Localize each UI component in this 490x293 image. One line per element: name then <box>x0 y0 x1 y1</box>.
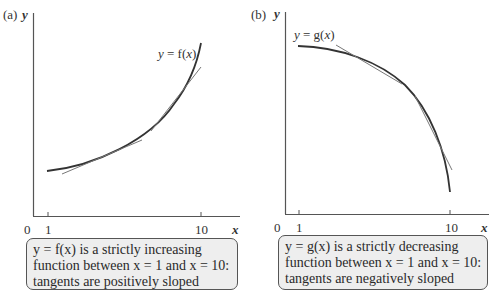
panel-b-caption-line-1: y = g(x) is a strictly decreasing <box>285 239 481 255</box>
panel-b-tangent-2 <box>415 96 452 170</box>
panel-b-caption: y = g(x) is a strictly decreasing functi… <box>278 235 488 290</box>
panel-b-curve-label: y = g(x) <box>292 27 335 42</box>
panel-a-label: (a) <box>3 7 17 22</box>
panel-a-tick-label-10: 10 <box>195 222 208 237</box>
panel-a-tangent-2 <box>151 67 201 131</box>
panel-b-x-axis-label: x <box>480 220 488 235</box>
panel-a-caption-line-2: function between x = 1 and x = 10: <box>33 258 231 274</box>
panel-a-x-axis-label: x <box>231 222 239 237</box>
panel-b-tangent-1 <box>336 45 402 84</box>
panel-b-label: (b) <box>251 7 266 22</box>
panel-a-origin-label: 0 <box>24 222 31 237</box>
panel-b: (b) y 0 1 10 x y = g(x) <box>251 6 489 235</box>
panel-a-tangent-1 <box>62 140 142 174</box>
panel-a-curve-f <box>47 43 201 171</box>
panel-a-caption-line-1: y = f(x) is a strictly increasing <box>33 242 231 258</box>
panel-a-caption-line-3: tangents are positively sloped <box>33 274 231 290</box>
panel-b-caption-line-3: tangents are negatively sloped <box>285 271 481 287</box>
panel-a: (a) y 0 1 10 x y = f(x) <box>3 7 240 237</box>
panel-a-caption: y = f(x) is a strictly increasing functi… <box>26 238 238 290</box>
panel-b-y-axis-label: y <box>272 6 280 21</box>
panel-b-tick-label-10: 10 <box>445 220 458 235</box>
panel-b-caption-line-2: function between x = 1 and x = 10: <box>285 255 481 271</box>
panel-b-origin-label: 0 <box>274 220 281 235</box>
panel-a-y-axis-label: y <box>20 7 28 22</box>
panel-b-tick-label-1: 1 <box>296 220 303 235</box>
panel-a-curve-label: y = f(x) <box>156 46 196 61</box>
panel-a-tick-label-1: 1 <box>45 222 52 237</box>
